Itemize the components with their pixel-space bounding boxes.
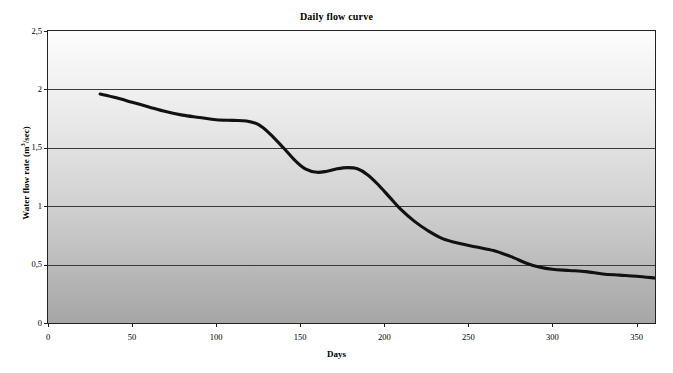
y-tick-label-1: 0,5: [16, 260, 42, 269]
x-axis-title: Days: [0, 349, 673, 359]
x-tick-mark-6: [552, 323, 553, 327]
x-tick-mark-0: [48, 323, 49, 327]
x-tick-mark-2: [216, 323, 217, 327]
x-tick-label-3: 150: [280, 333, 320, 342]
x-tick-label-4: 200: [364, 333, 404, 342]
x-tick-mark-5: [468, 323, 469, 327]
daily-flow-curve-chart: Daily flow curve Water flow rate (m3/sec…: [0, 0, 673, 373]
plot-area: [48, 31, 655, 323]
x-tick-mark-3: [300, 323, 301, 327]
x-tick-label-2: 100: [196, 333, 236, 342]
y-tick-label-3: 1,5: [16, 143, 42, 152]
data-curve-svg: [48, 31, 655, 323]
x-tick-label-6: 300: [532, 333, 572, 342]
y-axis-title: Water flow rate (m3/sec): [21, 103, 31, 243]
y-tick-label-0: 0: [16, 319, 42, 328]
y-axis-title-suffix: /sec): [21, 126, 31, 143]
x-tick-label-5: 250: [448, 333, 488, 342]
x-tick-label-1: 50: [112, 333, 152, 342]
x-tick-mark-1: [132, 323, 133, 327]
y-tick-label-5: 2,5: [16, 27, 42, 36]
x-tick-mark-7: [637, 323, 638, 327]
x-tick-mark-4: [384, 323, 385, 327]
x-tick-label-7: 350: [617, 333, 657, 342]
chart-title: Daily flow curve: [0, 11, 673, 23]
x-tick-label-0: 0: [28, 333, 68, 342]
flow-curve-path: [100, 94, 655, 278]
y-tick-label-2: 1: [16, 202, 42, 211]
y-tick-label-4: 2: [16, 85, 42, 94]
